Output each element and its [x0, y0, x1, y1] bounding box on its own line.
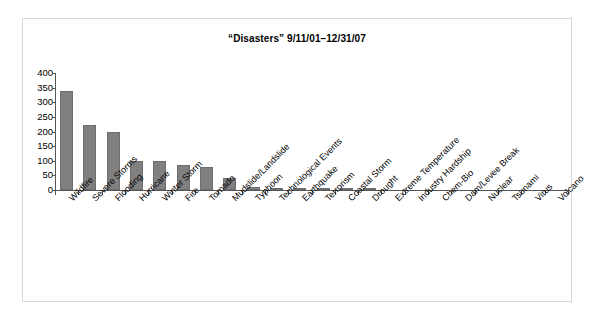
y-tick-mark [52, 161, 56, 162]
y-axis-labels: 400350300250200150100500 [23, 19, 53, 322]
x-tick-mark [55, 191, 56, 195]
x-axis-labels: WildfireSevere StormsFloodingHurricaneWi… [55, 196, 569, 296]
y-tick-label: 250 [23, 112, 53, 122]
chart-title: “Disasters” 9/11/01–12/31/07 [23, 33, 571, 44]
y-tick-mark [52, 175, 56, 176]
y-tick-label: 350 [23, 83, 53, 93]
y-tick-label: 200 [23, 127, 53, 137]
y-tick-mark [52, 117, 56, 118]
y-tick-label: 150 [23, 141, 53, 151]
y-tick-mark [52, 132, 56, 133]
y-tick-mark [52, 190, 56, 191]
bar [200, 167, 213, 190]
bar [60, 91, 73, 190]
y-tick-label: 300 [23, 98, 53, 108]
y-tick-label: 0 [23, 185, 53, 195]
y-tick-mark [52, 73, 56, 74]
y-tick-label: 50 [23, 171, 53, 181]
y-tick-label: 400 [23, 68, 53, 78]
y-tick-mark [52, 88, 56, 89]
y-tick-mark [52, 146, 56, 147]
y-tick-label: 100 [23, 156, 53, 166]
y-tick-mark [52, 102, 56, 103]
chart-frame: “Disasters” 9/11/01–12/31/07 40035030025… [22, 18, 572, 302]
